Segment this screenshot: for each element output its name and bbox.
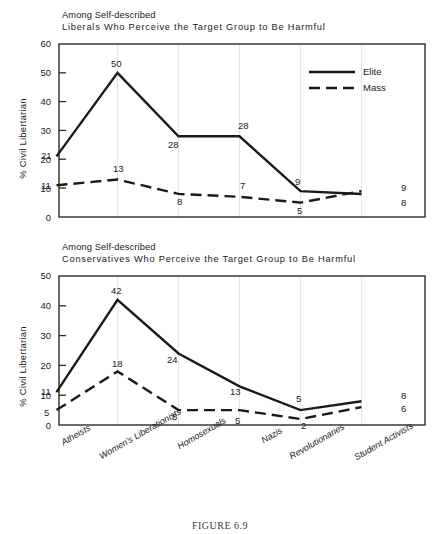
data-label-elite-bottom-2: 24 [167,354,178,365]
data-label-elite-top-0: 21 [41,150,52,161]
data-label-mass-bottom-4: 2 [301,420,306,431]
legend-label-elite: Elite [363,66,381,77]
data-label-mass-bottom-5: 6 [401,403,406,414]
data-label-elite-bottom-3: 13 [230,386,241,397]
data-label-mass-bottom-3: 5 [235,415,240,426]
plot-area-liberals [0,0,440,240]
chart-panel-conservatives: Among Self-described Conservatives Who P… [0,240,440,470]
data-label-elite-bottom-4: 5 [296,393,301,404]
data-label-elite-bottom-5: 8 [401,390,406,401]
data-label-mass-top-5: 9 [401,182,406,193]
data-label-elite-top-5: 8 [401,197,406,208]
data-label-mass-top-0: 11 [41,180,51,191]
data-label-mass-top-2: 8 [177,196,182,207]
legend-label-mass: Mass [363,82,386,93]
data-label-elite-top-2: 28 [168,139,179,150]
series-line-mass-bottom [57,371,362,419]
data-label-mass-top-1: 13 [113,163,124,174]
data-label-elite-top-1: 50 [111,58,122,69]
figure-caption: FIGURE 6.9 [0,520,440,531]
data-label-elite-bottom-1: 42 [111,285,122,296]
y-ticks-top [59,73,66,188]
legend-swatches-top [309,72,355,88]
plot-frame-bottom [59,276,425,425]
data-label-mass-top-3: 7 [240,180,245,191]
data-label-elite-top-4: 9 [295,176,300,187]
data-label-mass-bottom-1: 18 [112,358,123,369]
data-label-mass-top-4: 5 [297,205,302,216]
figure-container: Among Self-described Liberals Who Percei… [0,0,440,534]
data-label-mass-bottom-0: 5 [44,407,49,418]
data-label-elite-bottom-0: 11 [41,386,51,397]
data-label-elite-top-3: 28 [238,120,249,131]
chart-panel-liberals: Among Self-described Liberals Who Percei… [0,0,440,240]
series-line-elite-bottom [57,300,362,410]
gridlines-bottom [118,276,362,425]
series-line-elite-top [57,73,362,194]
